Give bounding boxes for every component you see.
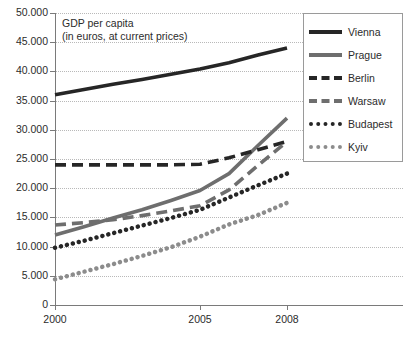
- chart-legend: ViennaPragueBerlinWarsawBudapestKyiv: [303, 13, 403, 162]
- y-axis-label: 10.000: [0, 241, 48, 252]
- y-axis-label: 15.000: [0, 211, 48, 222]
- x-axis-label: 2008: [257, 313, 317, 325]
- x-axis-line: [55, 305, 403, 306]
- legend-label: Berlin: [348, 72, 375, 84]
- y-axis-label: 5.000: [0, 270, 48, 281]
- chart-title-line1: GDP per capita: [62, 17, 187, 30]
- y-axis-label: 20.000: [0, 182, 48, 193]
- gridline: [55, 247, 403, 248]
- gdp-per-capita-chart: 05.00010.00015.00020.00025.00030.00035.0…: [0, 0, 406, 342]
- legend-item-warsaw[interactable]: Warsaw: [304, 89, 402, 112]
- x-axis-tick: [287, 305, 288, 310]
- y-axis-label: 0: [0, 299, 48, 310]
- legend-swatch-icon: [309, 118, 342, 129]
- series-line-warsaw: [55, 141, 287, 225]
- gridline: [55, 217, 403, 218]
- legend-swatch-icon: [309, 26, 342, 37]
- legend-swatch-icon: [309, 141, 342, 152]
- gridline: [55, 276, 403, 277]
- series-line-budapest: [55, 174, 287, 248]
- legend-item-vienna[interactable]: Vienna: [304, 20, 402, 43]
- legend-item-prague[interactable]: Prague: [304, 43, 402, 66]
- legend-item-kyiv[interactable]: Kyiv: [304, 135, 402, 158]
- legend-label: Kyiv: [348, 141, 368, 153]
- x-axis-label: 2005: [170, 313, 230, 325]
- y-axis-label: 25.000: [0, 153, 48, 164]
- legend-item-budapest[interactable]: Budapest: [304, 112, 402, 135]
- x-axis-label: 2000: [25, 313, 85, 325]
- legend-swatch-icon: [309, 95, 342, 106]
- x-axis-tick: [55, 305, 56, 310]
- y-axis-label: 40.000: [0, 65, 48, 76]
- legend-item-berlin[interactable]: Berlin: [304, 66, 402, 89]
- legend-label: Budapest: [348, 118, 392, 130]
- chart-title: GDP per capita (in euros, at current pri…: [62, 17, 187, 43]
- y-axis-label: 35.000: [0, 95, 48, 106]
- y-axis-label: 30.000: [0, 124, 48, 135]
- chart-title-line2: (in euros, at current prices): [62, 30, 187, 43]
- y-axis-label: 45.000: [0, 36, 48, 47]
- gridline: [55, 188, 403, 189]
- legend-label: Prague: [348, 49, 382, 61]
- y-axis-line: [55, 13, 56, 305]
- legend-label: Vienna: [348, 26, 381, 38]
- x-axis-tick: [200, 305, 201, 310]
- series-line-berlin: [55, 141, 287, 164]
- y-axis-label: 50.000: [0, 7, 48, 18]
- legend-swatch-icon: [309, 72, 342, 83]
- legend-swatch-icon: [309, 49, 342, 60]
- series-line-kyiv: [55, 203, 287, 280]
- legend-label: Warsaw: [348, 95, 386, 107]
